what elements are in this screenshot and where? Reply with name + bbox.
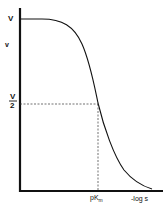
label-half-den: 2 bbox=[10, 102, 14, 110]
pkm-text: pK bbox=[90, 194, 99, 201]
curve bbox=[20, 19, 152, 189]
chart: V v V 2 pKm -log s bbox=[0, 0, 165, 207]
pkm-sub: m bbox=[99, 197, 103, 203]
label-half-num: V bbox=[10, 93, 15, 101]
plot-area bbox=[0, 0, 165, 207]
label-v: v bbox=[5, 41, 9, 49]
label-pkm: pKm bbox=[90, 194, 103, 204]
label-vmax: V bbox=[8, 15, 13, 23]
label-xaxis: -log s bbox=[131, 195, 148, 203]
